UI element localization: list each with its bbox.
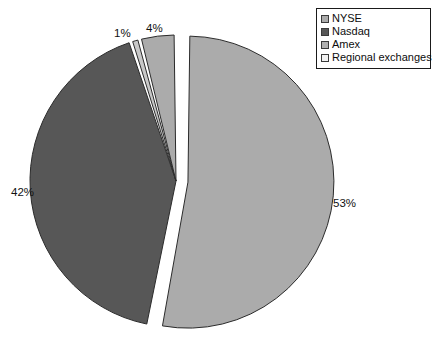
legend-label-nyse: NYSE xyxy=(332,12,362,25)
legend-swatch-amex xyxy=(321,41,329,49)
legend-swatch-nyse xyxy=(321,15,329,23)
legend-label-amex: Amex xyxy=(332,38,360,51)
legend-swatch-nasdaq xyxy=(321,28,329,36)
slice-label-nyse: 53% xyxy=(333,197,356,209)
pie-slices xyxy=(30,35,334,328)
legend-label-regional: Regional exchanges xyxy=(332,51,432,64)
legend-item-nyse[interactable]: NYSE xyxy=(321,12,426,25)
legend-item-amex[interactable]: Amex xyxy=(321,38,426,51)
pie-slice-nyse[interactable] xyxy=(162,36,333,328)
legend-label-nasdaq: Nasdaq xyxy=(332,25,370,38)
legend: NYSE Nasdaq Amex Regional exchanges xyxy=(316,8,431,69)
legend-swatch-regional xyxy=(321,54,329,62)
pie-chart: 53% 42% 1% 4% NYSE Nasdaq Amex Regional … xyxy=(0,0,437,355)
legend-item-regional[interactable]: Regional exchanges xyxy=(321,51,426,64)
slice-label-regional: 4% xyxy=(146,22,163,34)
legend-item-nasdaq[interactable]: Nasdaq xyxy=(321,25,426,38)
slice-label-nasdaq: 42% xyxy=(11,186,34,198)
slice-label-amex: 1% xyxy=(114,27,131,39)
